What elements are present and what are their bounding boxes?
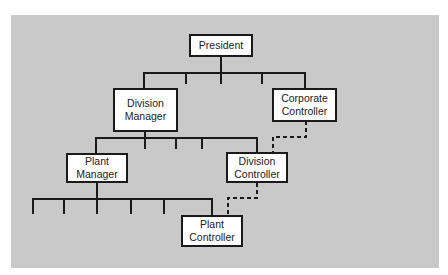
node-label-line2: Controller	[282, 105, 328, 118]
node-label-line1: Plant	[200, 218, 224, 231]
dashed-link-div-to-plant	[228, 183, 257, 215]
node-label-line1: Plant	[85, 155, 109, 168]
node-plant-controller: Plant Controller	[181, 215, 243, 247]
node-label-line1: Division	[127, 97, 164, 110]
node-label-line1: Division	[239, 155, 276, 168]
dashed-link-corp-to-div	[273, 121, 306, 152]
node-corporate-controller: Corporate Controller	[272, 88, 337, 122]
node-president: President	[189, 34, 253, 57]
node-label-line2: Controller	[234, 168, 280, 181]
node-label-line2: Manager	[125, 110, 166, 123]
node-division-manager: Division Manager	[113, 88, 178, 132]
node-plant-manager: Plant Manager	[66, 153, 128, 183]
node-division-controller: Division Controller	[226, 152, 288, 183]
node-label-line1: Corporate	[281, 92, 328, 105]
node-label-line2: Controller	[189, 231, 235, 244]
node-label-line2: Manager	[76, 168, 117, 181]
node-label: President	[199, 39, 243, 52]
